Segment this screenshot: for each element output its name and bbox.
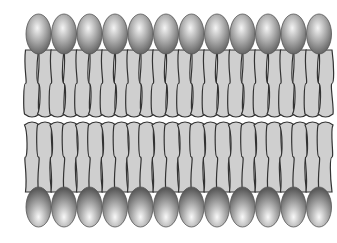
phosphate-head (205, 14, 230, 54)
phosphate-head (281, 14, 306, 54)
phospholipid (25, 122, 53, 227)
inner-leaflet (25, 122, 334, 227)
phospholipid (178, 122, 206, 227)
lipid-tail (100, 50, 116, 117)
phosphate-head (256, 14, 281, 54)
phospholipid (76, 122, 104, 227)
phosphate-head (281, 187, 306, 227)
phosphate-head (52, 187, 77, 227)
lipid-tail (304, 50, 320, 117)
lipid-tail (317, 122, 333, 192)
phosphate-head (230, 14, 255, 54)
phosphate-head (179, 187, 204, 227)
lipid-tail (279, 50, 295, 117)
phospholipid (229, 122, 257, 227)
phospholipid (280, 122, 308, 227)
phospholipid (304, 14, 333, 117)
phosphate-head (307, 14, 332, 54)
lipid-tail (75, 50, 91, 117)
phosphate-head (77, 187, 102, 227)
phosphate-head (154, 14, 179, 54)
phosphate-head (26, 187, 51, 227)
phosphate-head (77, 14, 102, 54)
outer-leaflet (24, 14, 334, 117)
phosphate-head (154, 187, 179, 227)
phospholipid (203, 122, 231, 227)
phosphate-head (205, 187, 230, 227)
phosphate-head (179, 14, 204, 54)
lipid-tail (151, 50, 167, 117)
phosphate-head (103, 14, 128, 54)
phospholipid (127, 122, 155, 227)
phosphate-head (103, 187, 128, 227)
phosphate-head (52, 14, 77, 54)
phospholipid (254, 122, 282, 227)
bilayer-graphic (0, 0, 337, 243)
phosphate-head (128, 187, 153, 227)
phospholipid (50, 122, 78, 227)
phospholipid (305, 122, 333, 227)
phospholipid (152, 122, 180, 227)
lipid-tail (318, 50, 334, 117)
lipid-tail (177, 50, 193, 117)
lipid-tail (253, 50, 269, 117)
phosphate-head (256, 187, 281, 227)
phosphate-head (26, 14, 51, 54)
lipid-tail (49, 50, 65, 117)
lipid-bilayer-diagram (0, 0, 337, 243)
phospholipid (101, 122, 129, 227)
lipid-tail (202, 50, 218, 117)
phosphate-head (230, 187, 255, 227)
lipid-tail (24, 50, 40, 117)
phosphate-head (307, 187, 332, 227)
lipid-tail (228, 50, 244, 117)
lipid-tail (126, 50, 142, 117)
phosphate-head (128, 14, 153, 54)
